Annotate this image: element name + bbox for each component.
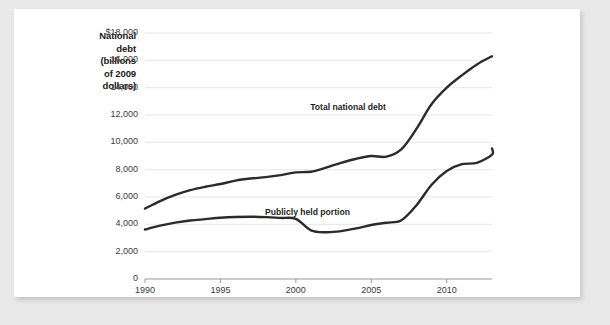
data-series (145, 56, 493, 232)
annotation-total-national-debt: Total national debt (310, 102, 386, 112)
y-axis-tick-label: 10,000 (78, 136, 138, 146)
y-axis-title-line-4: of 2009 (54, 68, 136, 81)
y-axis-tick-label: 0 (78, 273, 138, 283)
series-line (145, 56, 492, 208)
x-axis-line (145, 279, 492, 283)
series-line (145, 148, 493, 232)
y-axis-tick-label: 8,000 (78, 164, 138, 174)
y-axis-tick-label: $18,000 (78, 27, 138, 37)
x-axis-tick-label: 2005 (346, 285, 396, 295)
x-axis-tick-label: 1995 (195, 285, 245, 295)
x-axis-tick-label: 2010 (422, 285, 472, 295)
x-axis-tick-label: 2000 (271, 285, 321, 295)
annotation-publicly-held-portion: Publicly held portion (265, 207, 350, 217)
x-axis-tick-label: 1990 (120, 285, 170, 295)
y-axis-tick-label: 14,000 (78, 82, 138, 92)
y-axis-tick-label: 12,000 (78, 109, 138, 119)
chart-figure: National debt (billions of 2009 dollars)… (0, 0, 610, 325)
y-axis-tick-label: 6,000 (78, 191, 138, 201)
y-axis-tick-label: 16,000 (78, 54, 138, 64)
y-axis-title-line-2: debt (54, 43, 136, 56)
y-axis-tick-label: 2,000 (78, 246, 138, 256)
y-axis-tick-label: 4,000 (78, 218, 138, 228)
